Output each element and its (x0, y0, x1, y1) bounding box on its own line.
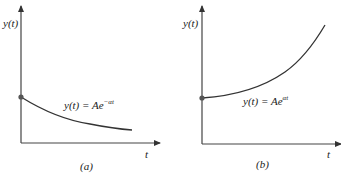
panel-b-caption: (b) (256, 158, 269, 170)
panel-b-x-label: t (327, 148, 330, 160)
panel-b-equation-exponent: αt (283, 94, 289, 102)
panel-b-equation: y(t) = Aeαt (243, 94, 288, 107)
panel-a-caption: (a) (80, 160, 93, 172)
panel-b-y-label: y(t) (183, 17, 198, 29)
panel-a-initial-point (18, 94, 23, 99)
panel-b-plot (199, 6, 341, 144)
panel-a-x-label: t (145, 148, 148, 160)
panel-b-equation-lhs: y(t) = Ae (243, 95, 283, 107)
panel-b-initial-point (199, 95, 204, 100)
panel-a-equation-exponent: −αt (104, 98, 114, 106)
figure-canvas (0, 0, 341, 179)
panel-a-y-label: y(t) (3, 17, 18, 29)
panel-b-growth-curve (202, 25, 325, 98)
panel-a-equation-lhs: y(t) = Ae (64, 99, 104, 111)
panel-a-plot (18, 6, 160, 143)
panel-a-equation: y(t) = Ae−αt (64, 98, 114, 111)
